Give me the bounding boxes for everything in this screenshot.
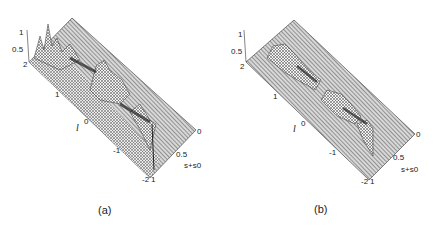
l-tick-0: 0 (301, 120, 305, 128)
s-tick-1: 1 (370, 178, 374, 186)
l-tick-neg2: -2 (142, 176, 149, 184)
l-tick-2: 2 (240, 63, 244, 71)
s-tick-0: 0 (416, 131, 420, 139)
s-tick-1: 1 (151, 176, 155, 184)
l-tick-0: 0 (84, 118, 88, 126)
s-axis-label: s+s0 (184, 162, 201, 170)
l-axis-label: l (293, 125, 296, 133)
surface-plot-b (217, 0, 435, 226)
l-tick-neg1: -1 (113, 147, 120, 155)
panel-a: 1 0.5 2 1 0 -1 -2 1 0.5 0 l s+s0 (a) (0, 0, 218, 226)
l-axis-label: l (76, 124, 79, 132)
surface-plot-a (0, 0, 218, 226)
z-tick-1: 1 (238, 31, 242, 39)
s-tick-0: 0 (197, 128, 201, 136)
caption-b: (b) (314, 203, 327, 215)
s-axis-label: s+s0 (401, 166, 418, 174)
panel-b: 1 0.5 2 1 0 -1 -2 1 0.5 0 l s+s0 (b) (217, 0, 435, 226)
z-tick-0.5: 0.5 (12, 46, 23, 54)
l-tick-1: 1 (55, 91, 59, 99)
caption-a: (a) (98, 204, 111, 216)
s-tick-0.5: 0.5 (393, 154, 404, 162)
l-tick-1: 1 (273, 93, 277, 101)
z-tick-0.5: 0.5 (231, 48, 242, 56)
l-tick-neg2: -2 (361, 178, 368, 186)
s-tick-0.5: 0.5 (176, 151, 187, 159)
z-tick-1: 1 (19, 29, 23, 37)
l-tick-neg1: -1 (329, 149, 336, 157)
l-tick-2: 2 (23, 61, 27, 69)
